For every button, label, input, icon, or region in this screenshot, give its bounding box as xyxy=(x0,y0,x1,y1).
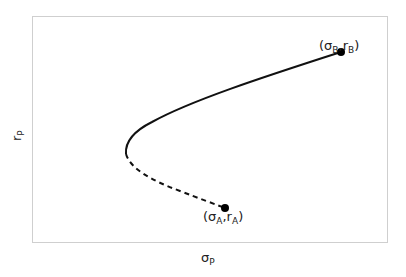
frontier-dashed-curve xyxy=(126,154,225,208)
point-b-label: (σB,rB) xyxy=(319,38,359,55)
frontier-solid-curve xyxy=(126,52,341,154)
chart: (σB,rB) (σA,rA) σP rP xyxy=(0,0,406,277)
x-axis-label: σP xyxy=(201,250,215,267)
point-a-label: (σA,rA) xyxy=(203,209,243,226)
y-axis-label-group: rP xyxy=(9,130,26,141)
y-axis-label: rP xyxy=(9,130,26,141)
